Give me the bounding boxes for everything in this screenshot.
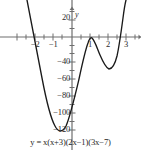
xtick-label-2: 2 bbox=[106, 40, 110, 49]
polynomial-curve bbox=[27, 0, 126, 131]
xtick-label-minus2: −2 bbox=[31, 40, 40, 49]
y-axis-label: y bbox=[75, 11, 79, 19]
axes-group bbox=[0, 0, 141, 150]
ytick-label-minus120: −120 bbox=[52, 125, 70, 134]
ytick-label-20: 20 bbox=[56, 13, 70, 22]
equation-caption: y = x(x+3)(2x−1)(3x−7) bbox=[0, 138, 141, 147]
xtick-label-minus1: −1 bbox=[49, 40, 58, 49]
x-axis-arrow bbox=[139, 34, 142, 39]
ytick-label-minus100: −100 bbox=[52, 108, 70, 117]
ytick-label-minus60: −60 bbox=[56, 74, 70, 83]
xtick-label-1: 1 bbox=[88, 40, 92, 49]
ytick-label-minus80: −80 bbox=[56, 91, 70, 100]
y-axis-arrow bbox=[70, 7, 75, 11]
xtick-label-3: 3 bbox=[124, 40, 128, 49]
plot-canvas bbox=[0, 0, 141, 150]
graph-figure: 20 −40 −60 −80 −100 −120 −2 −1 1 2 3 y y… bbox=[0, 0, 141, 150]
ytick-label-minus40: −40 bbox=[56, 57, 70, 66]
